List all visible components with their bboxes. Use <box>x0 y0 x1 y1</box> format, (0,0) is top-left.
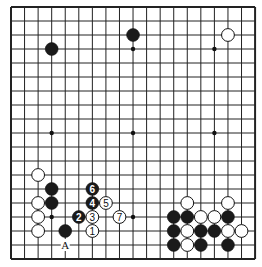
star-point-icon <box>212 131 216 135</box>
black-stone <box>45 183 58 196</box>
white-stone <box>32 211 45 224</box>
white-stone <box>235 225 248 238</box>
stones-layer: 1234567 <box>32 29 248 252</box>
white-stone: 7 <box>113 211 126 224</box>
move-number-label: 5 <box>103 198 109 209</box>
move-number-label: 6 <box>90 184 96 195</box>
stone-icon <box>167 239 180 252</box>
black-stone <box>222 239 235 252</box>
stone-icon <box>45 197 58 210</box>
stone-icon <box>194 225 207 238</box>
stone-icon <box>222 197 235 210</box>
stone-icon <box>32 225 45 238</box>
white-stone <box>32 169 45 182</box>
stone-icon <box>127 29 140 42</box>
black-stone <box>167 211 180 224</box>
stone-icon <box>32 197 45 210</box>
stone-icon <box>181 197 194 210</box>
marker-letter: A <box>61 239 69 251</box>
move-number-label: 4 <box>90 198 96 209</box>
black-stone <box>45 43 58 56</box>
stone-icon <box>32 169 45 182</box>
star-point-icon <box>49 131 53 135</box>
white-stone <box>181 239 194 252</box>
star-point-icon <box>212 47 216 51</box>
stone-icon <box>32 211 45 224</box>
black-stone: 4 <box>86 197 99 210</box>
stone-icon <box>181 225 194 238</box>
white-stone: 1 <box>86 225 99 238</box>
stone-icon <box>222 239 235 252</box>
stone-icon <box>45 43 58 56</box>
white-stone <box>208 211 221 224</box>
white-stone <box>222 197 235 210</box>
white-stone <box>32 197 45 210</box>
go-board: 1234567 A <box>0 0 262 267</box>
star-point-icon <box>49 215 53 219</box>
black-stone <box>45 197 58 210</box>
white-stone <box>181 197 194 210</box>
star-point-icon <box>131 47 135 51</box>
white-stone <box>222 29 235 42</box>
stone-icon <box>181 211 194 224</box>
move-number-label: 1 <box>90 226 96 237</box>
star-point-icon <box>131 215 135 219</box>
white-stone: 5 <box>100 197 113 210</box>
stone-icon <box>222 211 235 224</box>
black-stone: 2 <box>72 211 85 224</box>
letter-marker: A <box>61 239 70 251</box>
white-stone <box>194 211 207 224</box>
stone-icon <box>208 211 221 224</box>
stone-icon <box>181 239 194 252</box>
stone-icon <box>222 225 235 238</box>
stone-icon <box>208 225 221 238</box>
move-number-label: 3 <box>90 212 96 223</box>
black-stone <box>181 211 194 224</box>
white-stone <box>32 225 45 238</box>
stone-icon <box>194 239 207 252</box>
black-stone <box>194 225 207 238</box>
stone-icon <box>167 225 180 238</box>
black-stone <box>59 225 72 238</box>
stone-icon <box>59 225 72 238</box>
black-stone <box>167 239 180 252</box>
black-stone <box>194 239 207 252</box>
black-stone <box>222 211 235 224</box>
stone-icon <box>167 211 180 224</box>
markers-layer: A <box>61 239 70 251</box>
black-stone <box>127 29 140 42</box>
black-stone <box>167 225 180 238</box>
stone-icon <box>45 183 58 196</box>
white-stone <box>222 225 235 238</box>
black-stone: 6 <box>86 183 99 196</box>
move-number-label: 2 <box>76 212 82 223</box>
black-stone <box>208 225 221 238</box>
stone-icon <box>194 211 207 224</box>
stone-icon <box>222 29 235 42</box>
star-point-icon <box>131 131 135 135</box>
move-number-label: 7 <box>117 212 123 223</box>
white-stone: 3 <box>86 211 99 224</box>
stone-icon <box>235 225 248 238</box>
white-stone <box>181 225 194 238</box>
